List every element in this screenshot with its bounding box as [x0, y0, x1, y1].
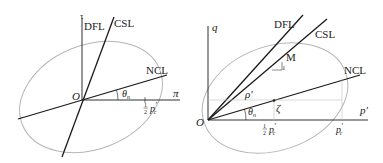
ncl-point: [273, 99, 276, 102]
pc-label-right: p′c: [335, 122, 343, 136]
origin-label-right: O: [196, 116, 204, 128]
half-pc-label-right: 1 2 p′c: [263, 122, 277, 136]
csl-label-right: CSL: [315, 28, 335, 40]
theta-label-right: θn: [248, 106, 256, 118]
pi-label: π: [173, 87, 179, 99]
left-panel: τ DFL CSL NCL O π θn 1 2 p′c: [3, 11, 180, 163]
half-pc-label-left: 1 2 p′c: [144, 101, 158, 115]
csl-line-left: [62, 17, 114, 157]
left-yield-ellipse: [3, 21, 179, 163]
origin-label-left: O: [72, 90, 80, 102]
ncl-line-right: [208, 75, 360, 120]
dfl-line-right: [208, 15, 303, 120]
svg-text:2: 2: [144, 109, 147, 115]
theta-arc-left: [117, 90, 119, 100]
csl-label-left: CSL: [114, 17, 134, 29]
yield-surface-diagram: τ DFL CSL NCL O π θn 1 2 p′c q DFL CSL N…: [0, 0, 383, 163]
ncl-label-right: NCL: [344, 64, 366, 76]
svg-text:p′c: p′c: [268, 122, 276, 136]
right-yield-ellipse: [187, 23, 364, 163]
theta-label-left: θn: [122, 88, 130, 100]
dfl-label-left: DFL: [84, 20, 105, 32]
dfl-label-right: DFL: [274, 18, 295, 30]
q-label: q: [212, 21, 218, 33]
right-panel: q DFL CSL NCL M 1 ρ′ ζ θn O p′ 1 2 p′c p…: [187, 15, 369, 163]
slope-triangle: [272, 62, 282, 70]
svg-text:p′c: p′c: [149, 101, 157, 115]
p-axis-label: p′: [359, 104, 369, 116]
slope-m-label: M: [286, 51, 296, 63]
svg-text:1: 1: [263, 123, 266, 129]
csl-line-right: [208, 19, 327, 120]
theta-arc-right: [245, 109, 247, 120]
slope-one-label: 1: [282, 64, 286, 72]
svg-text:2: 2: [263, 130, 266, 136]
svg-text:1: 1: [144, 102, 147, 108]
ncl-label-left: NCL: [146, 64, 168, 76]
zeta-label: ζ: [276, 102, 282, 115]
rho-label: ρ′: [244, 88, 253, 100]
